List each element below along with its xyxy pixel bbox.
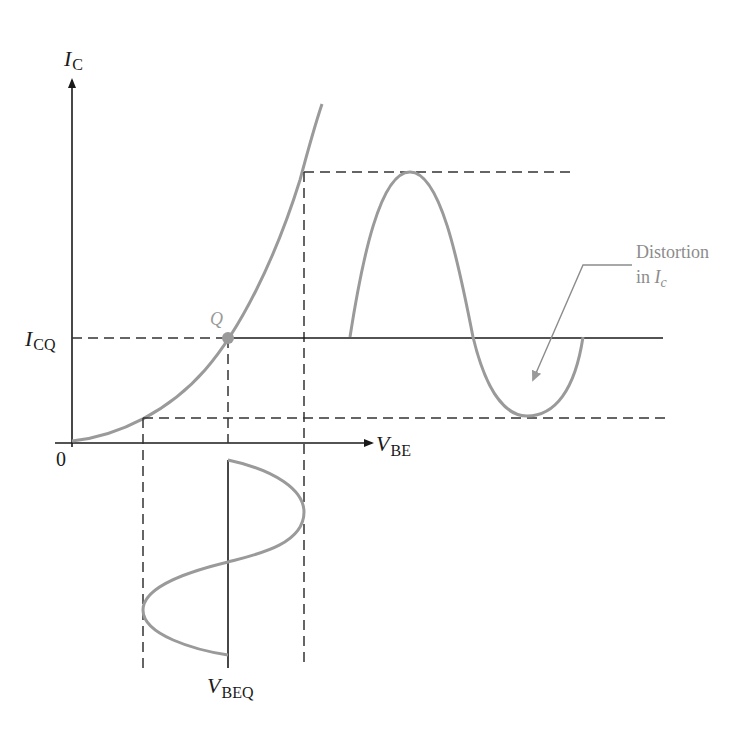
q-point-label: Q: [210, 309, 223, 329]
y-axis-label: IC: [63, 46, 83, 73]
origin-label: 0: [56, 448, 66, 470]
transistor-distortion-diagram: IC VBE 0 ICQ Q VBEQ Distortion in Ic: [0, 0, 752, 731]
annotation-line2: in Ic: [636, 267, 668, 290]
annotation-line1: Distortion: [636, 242, 709, 262]
icq-label: ICQ: [24, 326, 56, 353]
output-current-waveform: [350, 172, 583, 416]
q-point-marker: [222, 332, 234, 344]
x-axis-label: VBE: [376, 431, 411, 459]
transfer-curve: [72, 104, 322, 441]
vbeq-label: VBEQ: [207, 673, 254, 701]
dashed-guides: [72, 172, 668, 668]
distortion-arrow: [533, 265, 632, 380]
input-voltage-waveform: [143, 460, 304, 655]
